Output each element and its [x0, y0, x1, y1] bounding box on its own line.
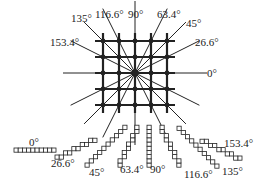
pixel-cell — [164, 138, 168, 142]
grid-node — [133, 103, 138, 108]
pixel-cell — [35, 148, 39, 152]
pixel-cell — [185, 135, 189, 139]
grid-node — [165, 71, 170, 76]
grid-node — [165, 55, 170, 60]
pixel-cell — [89, 138, 93, 142]
grid-node — [117, 71, 122, 76]
pixel-cell — [27, 148, 31, 152]
pixel-cell — [102, 146, 106, 150]
pixel-cell — [89, 159, 93, 163]
pixel-cell — [200, 139, 204, 143]
grid-node — [133, 55, 138, 60]
pixel-cell — [80, 142, 84, 146]
pixel-cell — [43, 148, 47, 152]
pixel-cell — [225, 152, 229, 156]
direction-diagram: 0° 26.6° 45° 63.4° 90° 116.6° 135° 153.4… — [0, 0, 265, 191]
pixel-cell — [147, 138, 151, 142]
pixel-cell — [194, 143, 198, 147]
grid-node — [149, 103, 154, 108]
grid-node — [101, 55, 106, 60]
label-0: 0° — [207, 67, 217, 79]
pixel-cell — [177, 159, 181, 163]
pixel-cell — [14, 148, 18, 152]
pixel-cell — [147, 155, 151, 159]
pixel-cell — [147, 146, 151, 150]
label-135: 135° — [71, 12, 92, 24]
grid-node — [117, 87, 122, 92]
pixel-cell — [177, 163, 181, 167]
pixel-cell — [168, 142, 172, 146]
grid-node — [117, 39, 122, 44]
pixel-cell — [215, 164, 219, 168]
pixel-cell — [63, 151, 67, 155]
pixel-cell — [147, 142, 151, 146]
grid-node — [149, 87, 154, 92]
pixel-cell — [119, 129, 123, 133]
label-116-6: 116.6° — [95, 8, 124, 20]
pixel-cell — [234, 156, 238, 160]
pixel-cell — [98, 150, 102, 154]
pixel-cell — [160, 125, 164, 129]
pixel-cell — [204, 139, 208, 143]
pixel-cell — [84, 142, 88, 146]
label-90: 90° — [128, 8, 143, 20]
pixel-cell — [190, 139, 194, 143]
pixel-cell — [135, 129, 139, 133]
pixel-cell — [123, 125, 127, 129]
stair-label-116-6: 116.6° — [184, 168, 213, 180]
label-26-6: 26.6° — [195, 36, 219, 48]
stair-label-90: 90° — [150, 163, 165, 175]
staircase-approximations — [14, 125, 242, 168]
pixel-cell — [181, 130, 185, 134]
grid-node — [117, 103, 122, 108]
grid-node — [133, 87, 138, 92]
pixel-cell — [208, 143, 212, 147]
grid-node — [165, 39, 170, 44]
pixel-cell — [217, 148, 221, 152]
pixel-cell — [68, 151, 72, 155]
stair-label-63-4: 63.4° — [120, 163, 144, 175]
pixel-cell — [147, 129, 151, 133]
pixel-cell — [160, 129, 164, 133]
pixel-cell — [22, 148, 26, 152]
stair-label-153-4: 153.4° — [224, 137, 253, 149]
pixel-cell — [93, 138, 97, 142]
pixel-cell — [168, 146, 172, 150]
pixel-cell — [147, 134, 151, 138]
label-153-4: 153.4° — [50, 36, 79, 48]
grid-node — [132, 70, 139, 77]
grid-node — [101, 71, 106, 76]
pixel-cell — [173, 155, 177, 159]
pixel-cell — [135, 125, 139, 129]
staircase-90 — [147, 125, 151, 167]
pixel-cell — [106, 142, 110, 146]
pixel-cell — [177, 126, 181, 130]
pixel-cell — [126, 142, 130, 146]
staircase-labels: 0° 26.6° 45° 63.4° 90° 116.6° 135° 153.4… — [29, 136, 253, 180]
pixel-cell — [48, 148, 52, 152]
pixel-cell — [147, 150, 151, 154]
stair-label-26-6: 26.6° — [51, 157, 75, 169]
grid-node — [101, 103, 106, 108]
pixel-cell — [164, 134, 168, 138]
grid-node — [149, 39, 154, 44]
grid-node — [117, 55, 122, 60]
grid-node — [133, 39, 138, 44]
pixel-cell — [131, 134, 135, 138]
pixel-cell — [126, 146, 130, 150]
staircase-0 — [14, 148, 56, 152]
grid-node — [101, 87, 106, 92]
pixel-cell — [39, 148, 43, 152]
pixel-cell — [18, 148, 22, 152]
pixel-cell — [202, 151, 206, 155]
pixel-cell — [229, 152, 233, 156]
grid-node — [149, 71, 154, 76]
pixel-cell — [173, 150, 177, 154]
grid-node — [149, 55, 154, 60]
stair-label-0: 0° — [29, 136, 39, 148]
grid-node — [165, 103, 170, 108]
pixel-cell — [213, 143, 217, 147]
pixel-cell — [206, 156, 210, 160]
pixel-cell — [114, 134, 118, 138]
grid-node — [165, 87, 170, 92]
